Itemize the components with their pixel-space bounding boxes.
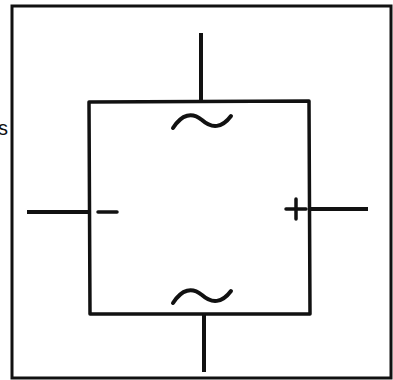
plus-sign-icon (286, 199, 306, 219)
bridge-rectifier-diagram (0, 0, 393, 380)
ac-tilde-bottom-icon (173, 290, 231, 303)
rectifier-body (89, 101, 310, 314)
ac-tilde-top-icon (173, 115, 231, 128)
